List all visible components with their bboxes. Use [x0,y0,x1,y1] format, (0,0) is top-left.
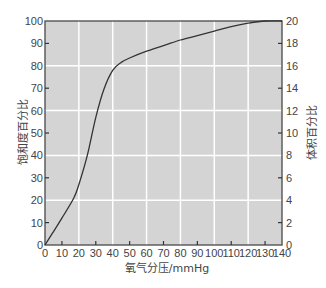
x-axis-title: 氧气分压/mmHg [125,261,209,275]
y-right-tick-label: 10 [286,127,298,139]
y-right-tick-label: 2 [286,217,292,229]
y-tick-label: 70 [31,82,43,94]
x-tick-label: 80 [174,247,186,259]
x-tick-label: 110 [222,247,240,259]
x-tick-label: 130 [256,247,274,259]
y-tick-label: 60 [31,105,43,117]
y-tick-label: 10 [31,217,43,229]
y-right-tick-label: 18 [286,37,298,49]
y-right-tick-label: 4 [286,194,292,206]
x-tick-label: 40 [107,247,119,259]
x-tick-label: 90 [191,247,203,259]
x-tick-labels: 0102030405060708090100110120130140 [42,247,291,259]
y-tick-label: 0 [37,239,43,251]
y-tick-label: 90 [31,37,43,49]
y-right-tick-label: 20 [286,15,298,27]
y-right-axis-title: 体积百分比 [305,105,319,160]
x-tick-label: 100 [205,247,223,259]
y-tick-label: 80 [31,60,43,72]
plot-background [45,21,282,245]
x-tick-label: 50 [124,247,136,259]
y-tick-label: 30 [31,172,43,184]
y-right-tick-label: 14 [286,82,298,94]
x-tick-label: 120 [239,247,257,259]
y-axis-title: 饱和度百分比 [16,99,30,165]
x-tick-label: 10 [56,247,68,259]
y-tick-label: 40 [31,149,43,161]
y-right-tick-label: 0 [286,239,292,251]
x-tick-label: 30 [90,247,102,259]
y-right-tick-label: 12 [286,105,298,117]
y-tick-label: 50 [31,127,43,139]
x-tick-label: 70 [157,247,169,259]
y-right-tick-label: 8 [286,149,292,161]
y-tick-label: 20 [31,194,43,206]
x-tick-label: 60 [140,247,152,259]
y-right-tick-labels: 02468101214161820 [286,15,298,251]
y-tick-label: 100 [25,15,43,27]
x-tick-label: 20 [73,247,85,259]
y-right-tick-label: 6 [286,172,292,184]
y-right-tick-label: 16 [286,60,298,72]
oxygen-dissociation-chart: 0102030405060708090100110120130140 01020… [0,0,326,288]
